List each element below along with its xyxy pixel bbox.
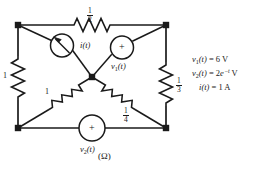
node-bottom-left xyxy=(15,125,21,131)
wire-diagonal-v1-to-center xyxy=(92,54,112,77)
node-top-left xyxy=(15,22,21,28)
legend-v1-arg: (t) xyxy=(199,54,207,64)
legend-row-i: i(t) = 1 A xyxy=(192,81,238,94)
wire-diagonal-bl-segment xyxy=(18,110,49,129)
lower-right-diagonal-denominator: 4 xyxy=(123,116,129,124)
wire-diagonal-source-to-center xyxy=(73,50,93,77)
wire-diagonal-tr-to-v1 xyxy=(132,25,166,41)
legend-v2-arg: (t) xyxy=(199,68,207,78)
right-resistor-denominator: 3 xyxy=(176,86,182,94)
node-top-right xyxy=(163,22,169,28)
units-caption: (Ω) xyxy=(98,151,111,161)
v1-source-polarity: + xyxy=(119,42,125,52)
v1-source-label: v1(t) xyxy=(111,62,126,72)
lower-right-diagonal-resistor-symbol xyxy=(92,77,135,110)
v2-label-arg: (t) xyxy=(87,144,95,154)
v2-source-label: v2(t) xyxy=(80,145,95,155)
legend-v2-value-suffix: V xyxy=(230,68,238,78)
legend-v1-value: = 6 V xyxy=(207,54,228,64)
left-resistor-label: 1 xyxy=(3,72,7,80)
lower-left-diagonal-resistor-symbol xyxy=(49,77,92,110)
lower-left-diagonal-resistor-label: 1 xyxy=(45,88,49,96)
right-resistor-label: 1 3 xyxy=(176,76,182,94)
left-resistor-symbol xyxy=(12,56,25,100)
legend-row-v1: v1(t) = 6 V xyxy=(192,53,238,67)
top-resistor-denominator: 2 xyxy=(87,16,93,24)
v2-source-polarity: + xyxy=(89,123,95,133)
given-values-legend: v1(t) = 6 V v2(t) = 2e−t V i(t) = 1 A xyxy=(192,53,238,94)
legend-i-value: = 1 A xyxy=(209,82,230,92)
legend-row-v2: v2(t) = 2e−t V xyxy=(192,67,238,81)
v1-label-arg: (t) xyxy=(118,61,126,71)
current-source-label: i(t) xyxy=(80,41,90,50)
right-resistor-symbol xyxy=(160,62,173,106)
wire-diagonal-br-segment xyxy=(135,110,166,129)
top-resistor-label: 1 2 xyxy=(87,6,93,24)
circuit-diagram-figure: 1 2 1 1 3 1 1 4 i(t) + v1(t) + v2(t) v1(… xyxy=(0,0,261,173)
lower-right-diagonal-resistor-label: 1 4 xyxy=(123,106,129,124)
node-center xyxy=(89,74,95,80)
legend-v2-value-prefix: = 2 xyxy=(207,68,220,78)
node-bottom-right xyxy=(163,125,169,131)
wire-diagonal-tl-to-source xyxy=(18,25,52,41)
current-source-label-arg: (t) xyxy=(82,40,90,50)
